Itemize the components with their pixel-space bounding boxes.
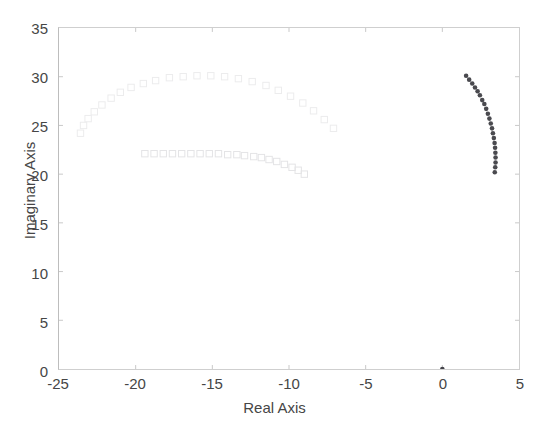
data-point (275, 87, 281, 93)
series-origin-pole (440, 367, 445, 369)
data-point (488, 121, 493, 126)
data-point (169, 151, 175, 157)
data-point (440, 367, 445, 369)
y-axis-title: Imaginary Axis (21, 111, 38, 271)
data-point (492, 141, 497, 146)
data-point (99, 102, 105, 108)
data-point (487, 116, 492, 121)
data-point (310, 108, 316, 114)
xtick-label-neg15: -15 (192, 376, 232, 391)
data-point (492, 136, 497, 141)
data-point (221, 74, 227, 80)
data-point (188, 151, 194, 157)
data-point (301, 171, 307, 177)
data-point (493, 155, 498, 160)
data-point (480, 98, 485, 103)
data-point (151, 151, 157, 157)
data-point (330, 125, 336, 131)
ytick-label-30: 30 (14, 70, 48, 85)
data-point (194, 73, 200, 79)
data-point (160, 151, 166, 157)
data-point (490, 126, 495, 131)
data-point (178, 151, 184, 157)
data-point (180, 74, 186, 80)
data-point (266, 156, 272, 162)
data-point (80, 122, 86, 128)
series-upper-locus-branch (77, 73, 336, 137)
data-point (251, 153, 257, 159)
data-point (166, 75, 172, 81)
data-point (493, 165, 498, 170)
data-point (484, 107, 489, 112)
data-point (197, 151, 203, 157)
data-point (493, 146, 498, 151)
data-point (241, 152, 247, 158)
data-point (77, 130, 83, 136)
series-right-locus-branch (464, 73, 498, 174)
xtick-label-0: 0 (423, 376, 463, 391)
series-lower-locus-branch (142, 151, 308, 178)
data-point (467, 77, 472, 82)
data-point (492, 170, 497, 175)
data-point (206, 151, 212, 157)
data-point (281, 161, 287, 167)
data-point (482, 102, 487, 107)
xtick-label-neg20: -20 (115, 376, 155, 391)
data-point (493, 160, 498, 165)
plot-svg (59, 28, 519, 369)
data-point (287, 93, 293, 99)
data-point (464, 73, 469, 78)
data-point (152, 77, 158, 83)
data-point (274, 158, 280, 164)
xtick-label-neg25: -25 (38, 376, 78, 391)
data-point (263, 82, 269, 88)
plot-area (58, 27, 520, 370)
data-point (300, 100, 306, 106)
data-point (295, 167, 301, 173)
data-point (475, 89, 480, 94)
data-point (91, 109, 97, 115)
data-point (493, 150, 498, 155)
data-point (140, 80, 146, 86)
data-point (486, 111, 491, 116)
data-point (208, 73, 214, 79)
data-point (108, 95, 114, 101)
data-point (235, 75, 241, 81)
data-point (473, 85, 478, 90)
ytick-label-5: 5 (14, 315, 48, 330)
data-point (289, 164, 295, 170)
data-point (249, 78, 255, 84)
x-axis-title: Real Axis (0, 399, 549, 416)
data-point (85, 115, 91, 121)
xtick-label-neg5: -5 (346, 376, 386, 391)
data-point (128, 84, 134, 90)
xtick-label-5: 5 (500, 376, 540, 391)
data-point (234, 151, 240, 157)
data-point (321, 116, 327, 122)
ytick-label-35: 35 (14, 21, 48, 36)
data-point (470, 81, 475, 86)
data-point (215, 151, 221, 157)
data-point (478, 93, 483, 98)
data-point (142, 151, 148, 157)
data-point (258, 154, 264, 160)
figure-canvas: 35 30 25 20 15 10 5 0 -25 -20 -15 -10 -5… (0, 0, 549, 425)
data-point (117, 89, 123, 95)
data-point (224, 151, 230, 157)
data-point (491, 131, 496, 136)
xtick-label-neg10: -10 (269, 376, 309, 391)
